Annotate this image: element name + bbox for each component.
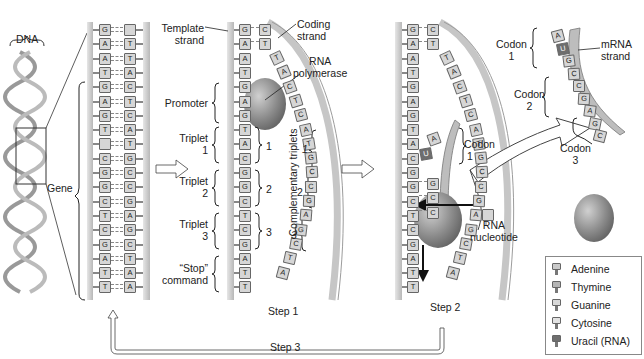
nucleotide-base: A [239,138,251,150]
hydrogen-bond [111,284,123,285]
nucleotide-base: C [259,24,271,36]
mrna-strand-label: mRNAstrand [601,38,632,62]
hydrogen-bond [111,141,123,142]
stop-command-label: “Stop”command [158,262,208,286]
hydrogen-bond [251,27,259,28]
brace-number-1: 1 [266,140,272,152]
nucleotide-base: C [124,81,136,93]
rna-polymerase-label: RNApolymerase [293,55,347,79]
nucleotide-base: T [124,138,136,150]
hydrogen-bond [111,74,123,75]
nucleotide-base: A [239,253,251,265]
nucleotide-base: T [407,67,419,79]
nucleotide-base: A [583,104,596,117]
hydrogen-bond [111,127,123,128]
nucleotide-base: T [407,281,419,293]
step-2-label: Step 2 [430,301,460,313]
nucleotide-base: A [239,38,251,50]
nucleotide-base: G [407,167,419,179]
base-stem [136,129,143,131]
hydrogen-bond [111,56,123,57]
nucleotide-base: G [124,153,136,165]
nucleotide-base: G [578,92,591,105]
nucleotide-base: C [407,224,419,236]
nucleotide-base: T [124,53,136,65]
nucleotide-base: T [407,267,419,279]
base-stem [136,215,143,217]
hydrogen-bond [111,203,123,204]
nucleotide-base: U [556,41,570,55]
nucleotide-base: T [239,67,251,79]
step-3-label: Step 3 [270,341,300,353]
nucleotide-base: C [124,110,136,122]
nucleotide-base: C [99,196,111,208]
nucleotide-base: C [305,181,317,193]
thymine-icon [552,281,561,293]
nucleotide-base: C [407,153,419,165]
triplet-1-label: Triplet1 [170,132,208,156]
nucleotide-base: T [239,210,251,222]
dna-helix-icon [5,52,45,292]
hydrogen-bond [111,288,123,289]
hydrogen-bond [419,195,427,196]
hydrogen-bond [111,170,123,171]
legend-item-guanine: Guanine [552,297,611,313]
nucleotide-base: T [99,267,111,279]
nucleotide-base: G [99,24,111,36]
base-stem [136,43,143,45]
hydrogen-bond [111,246,123,247]
hydrogen-bond [111,60,123,61]
complementary-number-1: 1 [302,143,308,155]
base-stem [136,86,143,88]
base-stem [136,244,143,246]
nucleotide-base: A [407,253,419,265]
nucleotide-base: A [124,124,136,136]
legend-item-thymine: Thymine [552,279,611,295]
nucleotide-base: C [239,224,251,236]
nucleotide-base: C [407,196,419,208]
hydrogen-bond [111,113,123,114]
hydrogen-bond [111,131,123,132]
nucleotide-base: A [445,265,460,280]
nucleotide-base: G [99,181,111,193]
nucleotide-base: A [99,253,111,265]
nucleotide-base: G [99,81,111,93]
nucleotide-base: G [239,24,251,36]
nucleotide-base: A [407,38,419,50]
base-stem [136,72,143,74]
nucleotide-base: C [573,80,585,92]
legend: Adenine Thymine Guanine Cytosine Uracil … [545,256,642,355]
hydrogen-bond [111,99,123,100]
coding-strand-label: Codingstrand [297,18,330,42]
hydrogen-bond [111,231,123,232]
hydrogen-bond [111,199,123,200]
hydrogen-bond [111,45,123,46]
hydrogen-bond [419,181,427,182]
hydrogen-bond [111,84,123,85]
codon-1-step2-label: Codon 1 [464,138,495,162]
nucleotide-base: C [427,192,439,204]
base-stem [136,186,143,188]
nucleotide-base: A [99,96,111,108]
hydrogen-bond [111,117,123,118]
nucleotide-base: T [124,96,136,108]
nucleotide-base: C [427,24,439,36]
codon-2-label: Codon2 [514,88,545,112]
base-stem [136,286,143,288]
nucleotide-base: G [239,239,251,251]
hydrogen-bond [111,103,123,104]
nucleotide-base: C [475,181,487,193]
nucleotide-base: A [299,122,313,136]
base-stem [136,272,143,274]
cytosine-icon [552,317,561,329]
nucleotide-base: C [427,207,439,219]
nucleotide-base: G [473,195,485,207]
base-stem [136,201,143,203]
nucleotide-base: T [283,251,297,265]
hydrogen-bond [111,27,123,28]
nucleotide-base: G [407,239,419,251]
nucleotide-base [124,24,136,36]
nucleotide-base [99,138,111,150]
codon-3-label: Codon3 [560,142,591,166]
hydrogen-bond [111,184,123,185]
